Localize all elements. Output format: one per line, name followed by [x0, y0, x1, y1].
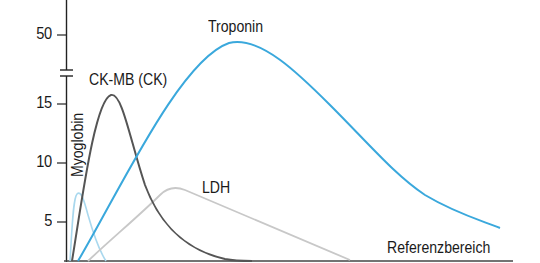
ckmb-label: CK-MB (CK): [89, 71, 167, 89]
tick-label-5: 5: [18, 211, 52, 231]
troponin-label: Troponin: [208, 18, 263, 36]
tick-label-10: 10: [18, 152, 52, 172]
tick-label-50: 50: [18, 24, 52, 44]
ldh-curve: [88, 188, 350, 261]
tick-label-15: 15: [18, 93, 52, 113]
ldh-label: LDH: [202, 179, 230, 197]
myoglobin-curve: [70, 193, 106, 261]
myoglobin-label: Myoglobin: [69, 113, 87, 177]
reference-label: Referenzbereich: [387, 239, 490, 257]
ckmb-curve: [72, 95, 252, 261]
